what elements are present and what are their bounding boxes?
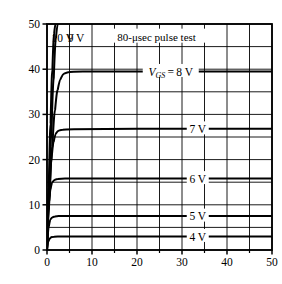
y-axis-tick-label: 20 [29,154,41,166]
y-axis-tick-label: 30 [29,108,41,120]
y-axis-tick-label: 10 [29,199,41,211]
x-axis-tick-label: 50 [266,256,278,268]
curve-label-7-v: 7 V [189,123,206,135]
annotation-text: 80-μsec pulse test [117,31,196,43]
chart-plot: 010203040500102030405010 V9 VVGS = 8 V7 … [0,0,282,284]
x-axis-tick-label: 0 [44,256,50,268]
x-axis-tick-label: 10 [86,256,98,268]
figure-container: ID—Drain current (amperes) 0102030405001… [0,0,282,284]
y-axis-tick-label: 0 [34,244,40,256]
curve-label-9-v: 9 V [68,32,85,44]
x-axis-tick-label: 40 [221,256,233,268]
y-axis-tick-label: 40 [29,63,41,75]
vgs-value: = 8 V [165,66,194,78]
curve-label-6-v: 6 V [189,173,206,185]
x-axis-tick-label: 30 [176,256,188,268]
y-axis-tick-label: 50 [29,18,41,30]
curve-label-5-v: 5 V [189,210,206,222]
vgs-subscript: GS [155,71,165,80]
x-axis-tick-label: 20 [131,256,143,268]
curve-label-4-v: 4 V [189,231,206,243]
